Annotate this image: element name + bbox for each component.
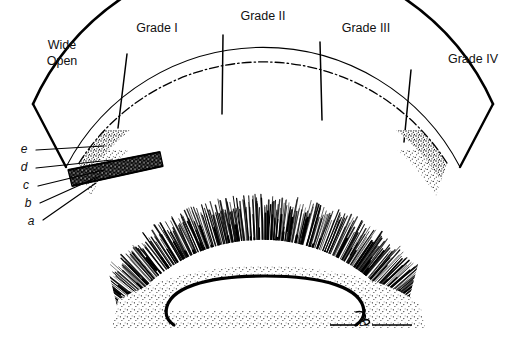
grade-label-1: Grade I bbox=[136, 21, 178, 35]
signature-text: B. bbox=[359, 317, 368, 328]
leader-a-line bbox=[43, 183, 96, 220]
grade-label-wide-open-line2: Open bbox=[47, 54, 78, 68]
layer-label-d: d bbox=[21, 160, 28, 174]
layer-label-group: e d c b a bbox=[21, 142, 35, 228]
grade-label-2: Grade II bbox=[240, 9, 285, 23]
layer-label-c: c bbox=[23, 178, 29, 192]
layer-label-a: a bbox=[28, 214, 35, 228]
cross-section-illustration: e d c b a Wide Open Grade I Grade II Gra… bbox=[0, 0, 526, 344]
grade-label-3: Grade III bbox=[342, 21, 391, 35]
layer-label-b: b bbox=[25, 196, 32, 210]
layer-label-e: e bbox=[21, 142, 28, 156]
grade-label-4: Grade IV bbox=[448, 52, 499, 66]
figure-canvas: e d c b a Wide Open Grade I Grade II Gra… bbox=[0, 0, 526, 344]
grade-label-wide-open-line1: Wide bbox=[48, 38, 77, 52]
layer-band-e bbox=[0, 62, 526, 210]
